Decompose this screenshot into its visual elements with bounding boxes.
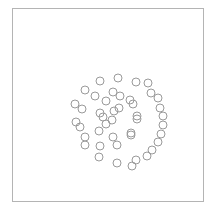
scatter-point <box>127 129 135 137</box>
scatter-point <box>81 86 89 94</box>
scatter-point <box>113 141 121 149</box>
scatter-point <box>114 74 122 82</box>
scatter-point <box>71 100 79 108</box>
scatter-point <box>96 142 104 150</box>
scatter-point <box>102 120 110 128</box>
scatter-point <box>132 78 140 86</box>
scatter-point <box>78 105 86 113</box>
scatter-point <box>81 133 89 141</box>
scatter-point <box>159 121 167 129</box>
scatter-point <box>72 118 80 126</box>
scatter-plot-canvas <box>0 0 216 214</box>
scatter-point <box>109 133 117 141</box>
scatter-point <box>91 92 99 100</box>
scatter-point <box>95 153 103 161</box>
scatter-point <box>154 94 162 102</box>
scatter-point <box>132 156 140 164</box>
scatter-point <box>159 112 167 120</box>
scatter-point <box>113 159 121 167</box>
scatter-markers-layer <box>71 74 167 170</box>
scatter-point <box>81 141 89 149</box>
scatter-point <box>128 162 136 170</box>
scatter-point <box>154 138 162 146</box>
scatter-point <box>95 127 103 135</box>
scatter-point <box>147 89 155 97</box>
scatter-point <box>108 116 116 124</box>
scatter-point <box>144 79 152 87</box>
spiral-scatter-figure <box>0 0 216 214</box>
scatter-point <box>156 104 164 112</box>
scatter-point <box>102 97 110 105</box>
scatter-point <box>76 123 84 131</box>
scatter-point <box>116 92 124 100</box>
scatter-series-arm-b <box>71 74 167 170</box>
scatter-point <box>127 131 135 139</box>
scatter-point <box>143 152 151 160</box>
scatter-point <box>157 130 165 138</box>
scatter-point <box>96 77 104 85</box>
